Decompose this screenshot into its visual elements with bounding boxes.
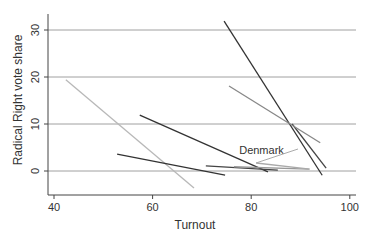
x-tick-label: 80 (245, 201, 257, 213)
data-series (66, 21, 326, 188)
y-tick-label: 0 (29, 168, 41, 174)
series-line-line-steep-dark-2 (292, 124, 326, 168)
chart: 0102030406080100 Denmark Turnout Radical… (0, 0, 372, 240)
x-tick-label: 100 (341, 201, 359, 213)
annotations: Denmark (239, 144, 298, 163)
gridlines (48, 30, 356, 171)
y-axis-label: Radical Right vote share (11, 34, 25, 165)
x-axis-label: Turnout (175, 218, 217, 232)
y-tick-label: 10 (29, 118, 41, 130)
x-tick-label: 60 (146, 201, 158, 213)
y-tick-label: 30 (29, 24, 41, 36)
series-line-line-light-gray (66, 80, 194, 188)
x-tick-label: 40 (48, 201, 60, 213)
axes: 0102030406080100 (29, 14, 359, 213)
series-line-line-dark-2 (117, 154, 225, 175)
series-line-line-medium-gray (229, 86, 320, 143)
annotation-label: Denmark (239, 144, 284, 156)
y-tick-label: 20 (29, 71, 41, 83)
